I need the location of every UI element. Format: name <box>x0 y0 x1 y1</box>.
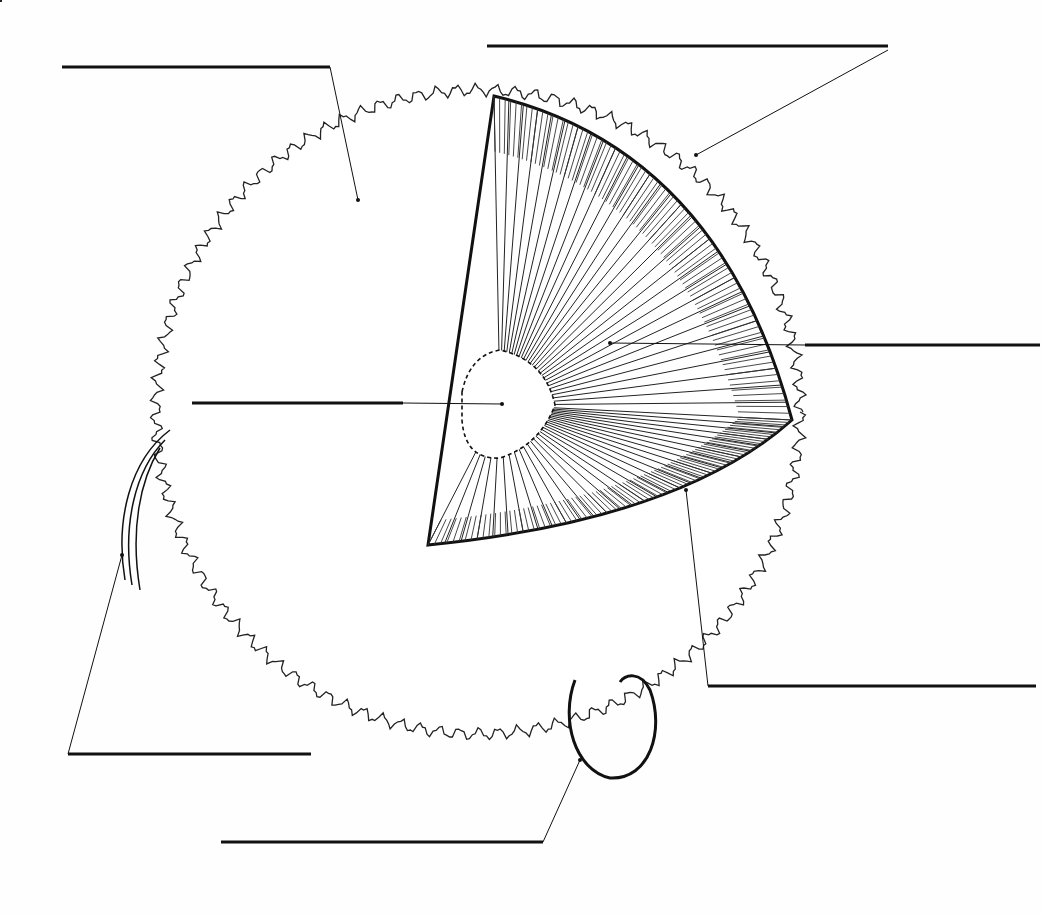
label-blank-solar-prominence-leader <box>68 555 122 754</box>
label-blank-radiative-zone-dot <box>608 341 612 345</box>
label-blank-solar-prominence-dot <box>120 553 124 557</box>
label-blank-solar-flare-dot <box>578 758 582 762</box>
label-blank-solar-flare-leader <box>543 760 580 842</box>
sunspot-icon <box>0 0 2 2</box>
sun-diagram <box>0 0 1043 914</box>
label-blank-convection-zone-dot <box>684 488 688 492</box>
sun-structure-illustration <box>0 0 1043 914</box>
label-blank-corona-leader <box>696 50 888 155</box>
label-blank-sunspot-dot <box>356 198 360 202</box>
label-blank-core-dot <box>500 402 504 406</box>
label-blank-corona-dot <box>694 153 698 157</box>
